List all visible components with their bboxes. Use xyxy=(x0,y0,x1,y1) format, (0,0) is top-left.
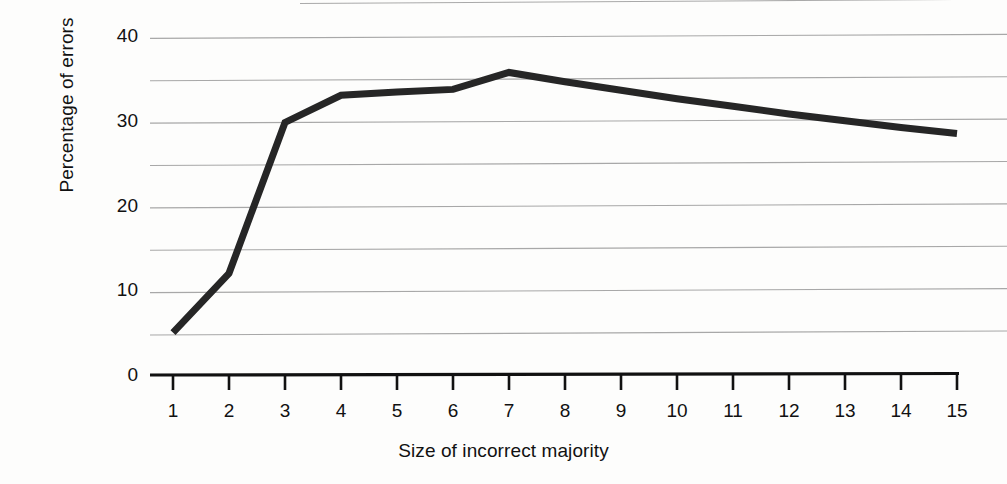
y-tick-label: 20 xyxy=(90,195,138,217)
gridline xyxy=(150,289,1007,293)
x-tick-label: 15 xyxy=(946,400,967,422)
data-line-group xyxy=(173,72,957,332)
x-tick-label: 2 xyxy=(224,400,235,422)
gridline xyxy=(150,77,1007,81)
line-chart: 010203040 123456789101112131415 Percenta… xyxy=(0,0,1007,484)
x-tick-label: 12 xyxy=(778,400,799,422)
x-tick-label: 5 xyxy=(392,400,403,422)
x-tick-label: 14 xyxy=(890,400,911,422)
x-axis-group xyxy=(150,374,959,391)
y-tick-label: 10 xyxy=(90,279,138,301)
gridlines-group xyxy=(150,34,1007,335)
x-tick-label: 1 xyxy=(168,400,179,422)
x-tick-label: 7 xyxy=(504,400,515,422)
x-tick-label: 13 xyxy=(834,400,855,422)
data-series-line xyxy=(173,72,957,332)
x-tick-label: 9 xyxy=(616,400,627,422)
y-tick-label: 30 xyxy=(90,110,138,132)
gridline xyxy=(150,331,1007,335)
x-tick-label: 4 xyxy=(336,400,347,422)
x-tick-label: 3 xyxy=(280,400,291,422)
x-tick-label: 6 xyxy=(448,400,459,422)
x-tick-label: 11 xyxy=(723,400,743,422)
gridline xyxy=(150,246,1007,250)
gridline xyxy=(150,162,1007,166)
gridline xyxy=(150,204,1007,208)
chart-page: 010203040 123456789101112131415 Percenta… xyxy=(0,0,1007,484)
y-tick-label: 40 xyxy=(90,25,138,47)
y-tick-label: 0 xyxy=(90,364,138,386)
x-axis-line xyxy=(150,374,959,376)
y-axis-title: Percentage of errors xyxy=(56,0,82,295)
gridline xyxy=(150,34,1007,38)
x-tick-label: 10 xyxy=(666,400,687,422)
x-tick-label: 8 xyxy=(560,400,571,422)
x-axis-title: Size of incorrect majority xyxy=(0,440,1007,462)
